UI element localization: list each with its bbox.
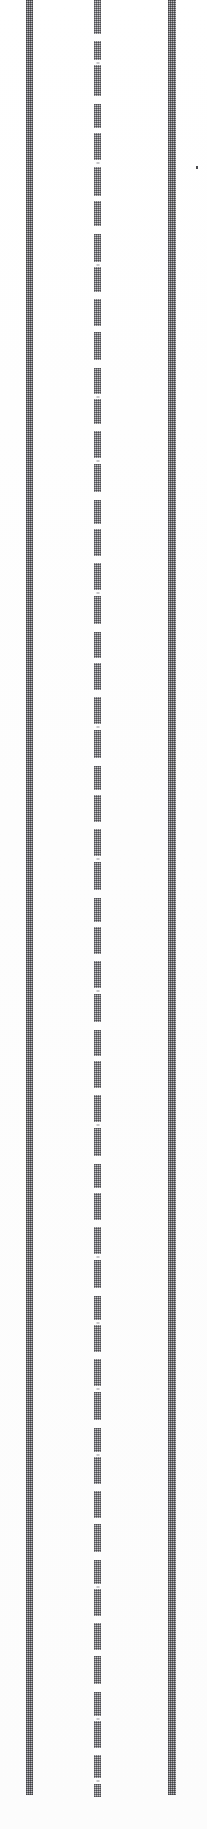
faint-text-mark [96, 264, 99, 266]
text-line-gap [94, 326, 101, 332]
text-line-gap [94, 758, 101, 766]
text-line-gap [94, 1188, 101, 1193]
text-line-gap [94, 1288, 101, 1296]
text-line-gap [94, 34, 101, 41]
left-rule [26, 0, 33, 1795]
text-line-gap [94, 1650, 101, 1656]
text-line-gap [94, 360, 101, 368]
faint-text-mark [96, 162, 99, 164]
faint-text-mark [96, 858, 99, 860]
text-line-gap [94, 1484, 101, 1491]
text-line-gap [94, 1420, 101, 1428]
text-line-gap [94, 96, 101, 104]
faint-text-mark [96, 396, 99, 398]
text-line-gap [94, 890, 101, 898]
text-line-gap [94, 1220, 101, 1227]
faint-text-mark [96, 990, 99, 992]
text-line-gap [94, 226, 101, 234]
text-line-gap [94, 690, 101, 697]
text-line-gap [94, 1088, 101, 1095]
text-line-gap [94, 1518, 101, 1524]
faint-text-mark [96, 1322, 99, 1324]
text-line-gap [94, 556, 101, 563]
faint-text-mark [96, 1256, 99, 1258]
text-line-gap [94, 424, 101, 431]
right-rule-texture [168, 0, 176, 1795]
faint-text-mark [96, 1124, 99, 1126]
faint-text-mark [96, 1718, 99, 1720]
right-rule [168, 0, 176, 1795]
faint-text-mark [96, 1586, 99, 1588]
text-line-gap [94, 922, 101, 927]
text-line-gap [94, 1022, 101, 1030]
text-line-gap [94, 1684, 101, 1692]
text-line-gap [94, 1352, 101, 1359]
text-line-gap [94, 954, 101, 961]
text-line-gap [94, 790, 101, 795]
text-line-gap [94, 1616, 101, 1623]
faint-text-mark [96, 1388, 99, 1390]
text-line-gap [94, 492, 101, 500]
middle-rule-texture [94, 0, 101, 1797]
text-line-gap [94, 1748, 101, 1755]
faint-text-mark [96, 1780, 99, 1782]
text-line-gap [94, 1056, 101, 1061]
faint-text-mark [96, 460, 99, 462]
text-line-gap [94, 822, 101, 829]
text-line-gap [94, 292, 101, 299]
left-rule-texture [26, 0, 33, 1795]
faint-text-mark [96, 62, 99, 64]
text-line-gap [94, 128, 101, 133]
text-line-gap [94, 1552, 101, 1560]
faint-text-mark [96, 726, 99, 728]
ink-speck [196, 166, 198, 169]
text-line-gap [94, 196, 101, 201]
middle-rule [94, 0, 101, 1797]
document-page [0, 0, 207, 1829]
faint-text-mark [96, 1454, 99, 1456]
faint-text-mark [96, 592, 99, 594]
text-line-gap [94, 1156, 101, 1164]
text-line-gap [94, 658, 101, 663]
text-line-gap [94, 624, 101, 632]
text-line-gap [94, 524, 101, 529]
